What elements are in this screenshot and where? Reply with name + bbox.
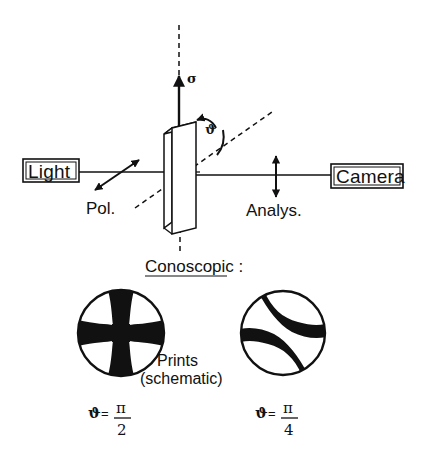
left-equals-sign: = bbox=[101, 406, 109, 421]
right-equals-sign: = bbox=[268, 406, 276, 421]
diagonal-reference-axis bbox=[135, 112, 272, 208]
right-denominator: 4 bbox=[284, 421, 294, 439]
conoscopic-print-split-isogyre bbox=[236, 291, 330, 375]
light-source-label: Light bbox=[28, 161, 71, 182]
optical-setup-figure: σ ϑ Pol. Analys. bbox=[0, 0, 426, 452]
left-numerator: π bbox=[116, 399, 126, 417]
prints-caption-line1: Prints bbox=[157, 352, 198, 369]
figure-canvas: σ ϑ Pol. Analys. bbox=[0, 0, 426, 452]
polarizer-label: Pol. bbox=[86, 199, 115, 218]
right-angle-symbol: ϑ bbox=[255, 404, 268, 422]
left-print-equation: ϑ = π 2 bbox=[88, 399, 131, 439]
crystal-sample-slab bbox=[164, 122, 196, 234]
left-angle-symbol: ϑ bbox=[88, 404, 101, 422]
prints-caption-line2: (schematic) bbox=[140, 370, 223, 387]
conoscopic-print-maltese-cross bbox=[78, 290, 164, 376]
camera-label: Camera bbox=[336, 166, 405, 187]
right-print-equation: ϑ = π 4 bbox=[255, 399, 298, 439]
analyzer-label: Analys. bbox=[246, 201, 302, 220]
polarizer-arrow bbox=[95, 160, 139, 190]
stress-axis-symbol: σ bbox=[187, 71, 197, 86]
angle-symbol: ϑ bbox=[205, 122, 216, 137]
right-numerator: π bbox=[283, 399, 293, 417]
conoscopic-heading: Conoscopic : bbox=[145, 257, 243, 276]
left-denominator: 2 bbox=[117, 421, 127, 439]
